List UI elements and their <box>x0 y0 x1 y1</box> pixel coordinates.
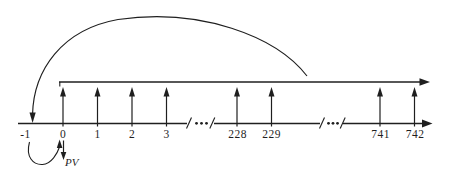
upper-collection-line <box>59 78 430 86</box>
cash-flow-arrow-t2 <box>129 87 135 127</box>
break-dot <box>327 122 330 125</box>
pv-discount-hook-arrow <box>28 140 62 165</box>
pv-hook-up-arrowhead-icon <box>57 140 63 149</box>
break-dot <box>200 122 203 125</box>
break-dot <box>205 122 208 125</box>
tick-label-229: 229 <box>262 129 281 141</box>
cash-flow-arrow-t229 <box>269 87 275 127</box>
break-dot <box>336 122 339 125</box>
break-dot <box>195 122 198 125</box>
tick-label-742: 742 <box>406 129 425 141</box>
tick-label-3: 3 <box>163 129 169 141</box>
cash-flow-arrow-t3 <box>164 87 170 127</box>
pv-hook-curve <box>28 142 59 165</box>
accumulation-arc-arrow <box>30 17 308 123</box>
upper-line-right-arrowhead-icon <box>420 78 431 86</box>
tick-label-minus1: -1 <box>20 129 31 141</box>
cash-flow-timeline-diagram: -1 0 1 2 3 228 229 741 742 PV <box>0 0 456 184</box>
break-dot <box>332 122 335 125</box>
arc-down-arrowhead-icon <box>30 113 36 124</box>
axis-right-arrowhead-icon <box>422 120 433 128</box>
axis-break-2 <box>320 118 346 129</box>
cash-flow-arrow-t742 <box>412 87 418 127</box>
break-slash-icon <box>187 118 192 129</box>
tick-label-1: 1 <box>94 129 100 141</box>
cash-flow-arrow-t741 <box>377 87 383 127</box>
cash-flow-arrow-t1 <box>95 87 101 127</box>
cash-flow-arrow-t0 <box>60 87 66 127</box>
axis-break-1 <box>187 118 215 129</box>
cash-flow-arrows <box>60 87 418 127</box>
time-axis <box>18 118 433 129</box>
break-slash-icon <box>320 118 325 129</box>
tick-label-0: 0 <box>60 129 66 141</box>
present-value-label: PV <box>65 157 78 168</box>
tick-label-2: 2 <box>129 129 135 141</box>
tick-label-741: 741 <box>371 129 390 141</box>
tick-label-228: 228 <box>228 129 247 141</box>
cash-flow-arrow-t228 <box>234 87 240 127</box>
accumulation-arc <box>33 17 308 115</box>
